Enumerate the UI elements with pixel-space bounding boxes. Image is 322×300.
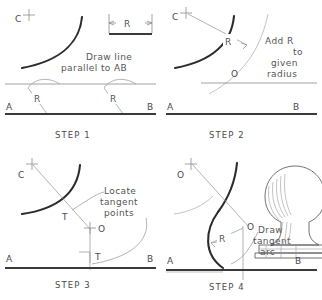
leader-arrow xyxy=(211,242,217,247)
panel-step-1: C R Draw line parallel to AB xyxy=(0,0,161,150)
instruction-line-3: points xyxy=(104,208,134,218)
given-arc xyxy=(22,17,82,68)
label-tangent-upper: T xyxy=(61,212,68,222)
step-2-drawing: C R Add R to given radius O A B STEP 2 xyxy=(161,0,322,150)
label-point-c: C xyxy=(172,12,178,22)
panel-step-2: C R Add R to given radius O A B STEP 2 xyxy=(161,0,322,150)
step-label-2: STEP 2 xyxy=(209,130,245,140)
label-point-c: C xyxy=(15,14,21,24)
right-angle-marker xyxy=(79,252,90,263)
instruction-line-1: Locate xyxy=(104,186,136,196)
line-center-to-o xyxy=(192,164,248,226)
label-point-o: O xyxy=(231,69,238,79)
center-mark-c xyxy=(180,7,192,19)
radius-leader xyxy=(188,14,247,45)
step-1-drawing: C R Draw line parallel to AB xyxy=(0,0,161,150)
offset-arc xyxy=(209,14,268,94)
offset-arc-remnant xyxy=(174,196,213,214)
label-point-o: O xyxy=(98,224,105,234)
instruction-line-2: tangent xyxy=(100,197,138,207)
radius-label-left: R xyxy=(34,94,41,104)
label-point-upper-o: O xyxy=(177,170,184,180)
instruction-line-1: Draw xyxy=(258,225,283,235)
instruction-line-2: parallel to AB xyxy=(61,63,127,73)
label-point-o: O xyxy=(247,222,254,232)
given-arc xyxy=(218,163,237,212)
step-label-4: STEP 4 xyxy=(209,282,245,292)
dimension-label-r: R xyxy=(124,19,131,29)
label-point-b: B xyxy=(293,102,299,112)
label-point-b: B xyxy=(295,256,301,266)
leader-arrow xyxy=(241,43,247,49)
label-point-a: A xyxy=(6,102,13,112)
radius-label: R xyxy=(225,37,232,47)
label-point-a: A xyxy=(167,102,174,112)
step-3-drawing: C T O T Locate tangent points xyxy=(0,150,161,300)
instruction-line-3: arc xyxy=(260,247,275,257)
center-mark-upper xyxy=(185,158,197,170)
radius-dimension-box: R xyxy=(109,14,152,34)
instruction-line-2: to xyxy=(293,47,303,57)
label-point-b: B xyxy=(147,102,153,112)
instruction-line-3: given xyxy=(271,58,298,68)
instruction-line-1: Draw line xyxy=(86,52,132,62)
radius-label: R xyxy=(219,234,226,244)
panel-step-3: C T O T Locate tangent points xyxy=(0,150,161,300)
radius-label-right: R xyxy=(110,94,117,104)
step-4-drawing: O O R Draw tangent arc xyxy=(161,150,322,300)
label-point-b: B xyxy=(147,254,153,264)
label-point-c: C xyxy=(18,170,24,180)
step-label-3: STEP 3 xyxy=(55,280,91,290)
panel-step-4: O O R Draw tangent arc xyxy=(161,150,322,300)
step-label-1: STEP 1 xyxy=(55,130,91,140)
label-point-a: A xyxy=(6,254,13,264)
label-tangent-lower: T xyxy=(94,252,101,262)
technical-drawing-sheet: C R Draw line parallel to AB xyxy=(0,0,322,300)
instruction-line-1: Add R xyxy=(265,36,294,46)
label-point-a: A xyxy=(167,256,174,266)
instruction-line-4: radius xyxy=(267,69,297,79)
center-mark-c xyxy=(23,9,35,21)
given-arc xyxy=(22,165,80,214)
